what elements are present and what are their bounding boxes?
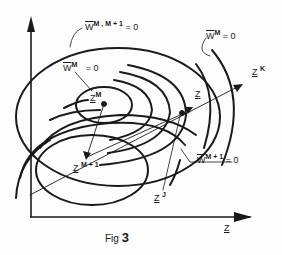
x-axis-arrow: [234, 212, 252, 222]
label-z-m: ZM: [90, 91, 101, 103]
label-z-k: Z K: [252, 65, 265, 77]
figure-caption: Fig 3: [105, 230, 129, 245]
label-z-dot: Z: [195, 90, 201, 99]
point-z-m: [102, 102, 107, 107]
contour-w-m-m1: [16, 48, 220, 186]
label-w-m-inner: WM = 0: [63, 61, 99, 73]
label-w-m1: WM + 1 = 0: [197, 153, 238, 165]
x-axis-label: Z: [224, 224, 230, 233]
label-z-j: Z J: [154, 191, 166, 203]
label-z-m1: Z M + 1: [73, 161, 99, 173]
y-axis-arrow: [27, 16, 35, 32]
label-w-m-m1: WM , M + 1 = 0: [85, 20, 138, 32]
diagram-canvas: [0, 0, 282, 255]
label-w-m-right: WM = 0: [206, 29, 236, 41]
